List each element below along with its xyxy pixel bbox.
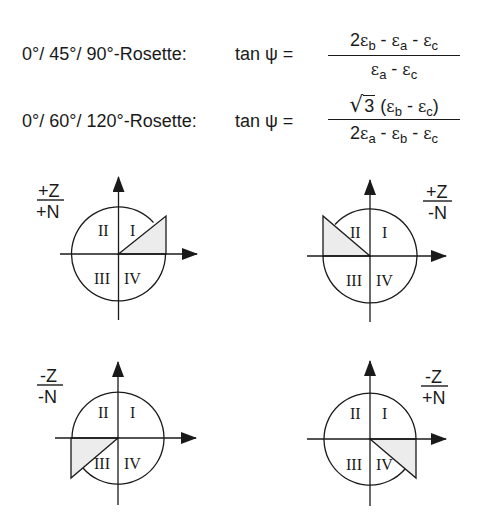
diagram-top-left — [60, 177, 197, 320]
shaded-triangle-q2 — [323, 216, 370, 256]
sign-top-right-n: -N — [428, 203, 447, 224]
quadrant-label-III: III — [94, 270, 110, 288]
sign-top-right-z: +Z — [426, 182, 448, 203]
sign-top-left-z: +Z — [38, 181, 60, 202]
quadrant-label-II: II — [350, 405, 361, 423]
quadrant-diagrams — [0, 0, 481, 526]
quadrant-label-II: II — [98, 404, 109, 422]
quadrant-label-IV: IV — [376, 456, 393, 474]
quadrant-label-I: I — [130, 404, 135, 422]
diagram-bottom-left — [55, 362, 196, 505]
quadrant-label-I: I — [382, 224, 387, 242]
quadrant-label-III: III — [346, 272, 362, 290]
sign-bottom-right-z: -Z — [425, 367, 442, 388]
quadrant-label-III: III — [94, 455, 110, 473]
quadrant-label-IV: IV — [124, 455, 141, 473]
sign-bottom-right-n: +N — [422, 388, 446, 409]
quadrant-label-IV: IV — [124, 270, 141, 288]
sign-top-left-n: +N — [36, 202, 60, 223]
quadrant-label-I: I — [382, 405, 387, 423]
sign-bottom-left-z: -Z — [40, 366, 57, 387]
quadrant-label-IV: IV — [376, 272, 393, 290]
quadrant-label-II: II — [98, 222, 109, 240]
shaded-triangle-q1 — [119, 216, 167, 254]
quadrant-label-III: III — [346, 456, 362, 474]
quadrant-label-I: I — [130, 222, 135, 240]
quadrant-label-II: II — [350, 224, 361, 242]
sign-bottom-left-n: -N — [38, 387, 57, 408]
